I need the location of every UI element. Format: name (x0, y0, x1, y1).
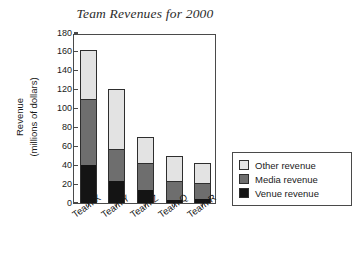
y-axis-title-line-1: Revenue (14, 98, 25, 136)
legend-label-venue: Venue revenue (255, 188, 319, 199)
y-tick-mark (74, 108, 78, 109)
y-tick-label: 140 (57, 66, 74, 75)
bar-segment-other (137, 137, 154, 163)
bar-team-y[interactable] (108, 89, 125, 203)
y-tick-label: 60 (62, 142, 74, 151)
legend-label-media: Media revenue (255, 174, 318, 185)
y-tick-label: 100 (57, 104, 74, 113)
y-tick-label: 80 (62, 123, 74, 132)
bar-team-x[interactable] (80, 50, 97, 203)
y-tick-label: 20 (62, 180, 74, 189)
y-tick-label: 40 (62, 161, 74, 170)
bar-segment-media (80, 99, 97, 165)
y-tick-mark (74, 51, 78, 52)
y-tick-label: 120 (57, 85, 74, 94)
y-tick-mark (74, 146, 78, 147)
y-tick-mark (74, 184, 78, 185)
bar-segment-media (137, 163, 154, 189)
y-tick-mark (74, 127, 78, 128)
legend-swatch-other-icon (239, 160, 249, 170)
chart-legend: Other revenue Media revenue Venue revenu… (232, 152, 352, 206)
bar-segment-other (108, 89, 125, 149)
y-tick-label: 180 (57, 29, 74, 38)
y-tick-mark (74, 202, 78, 203)
legend-swatch-venue-icon (239, 188, 249, 198)
legend-swatch-media-icon (239, 174, 249, 184)
bar-segment-other (80, 50, 97, 99)
legend-item-media[interactable]: Media revenue (239, 172, 344, 186)
y-tick-mark (74, 165, 78, 166)
bar-segment-other (194, 163, 211, 183)
legend-item-venue[interactable]: Venue revenue (239, 186, 344, 200)
y-tick-mark (74, 89, 78, 90)
legend-label-other: Other revenue (255, 160, 316, 171)
bar-segment-other (166, 156, 183, 182)
chart-title: Team Revenues for 2000 (0, 6, 290, 22)
y-tick-label: 0 (67, 199, 74, 208)
legend-item-other[interactable]: Other revenue (239, 158, 344, 172)
y-axis-title: Revenue (millions of dollars) (8, 52, 42, 182)
bar-segment-media (108, 149, 125, 181)
plot-area: 020406080100120140160180 (73, 34, 216, 204)
y-tick-label: 160 (57, 47, 74, 56)
y-tick-mark (74, 70, 78, 71)
y-tick-mark (74, 32, 78, 33)
y-axis-title-line-2: (millions of dollars) (28, 77, 39, 156)
